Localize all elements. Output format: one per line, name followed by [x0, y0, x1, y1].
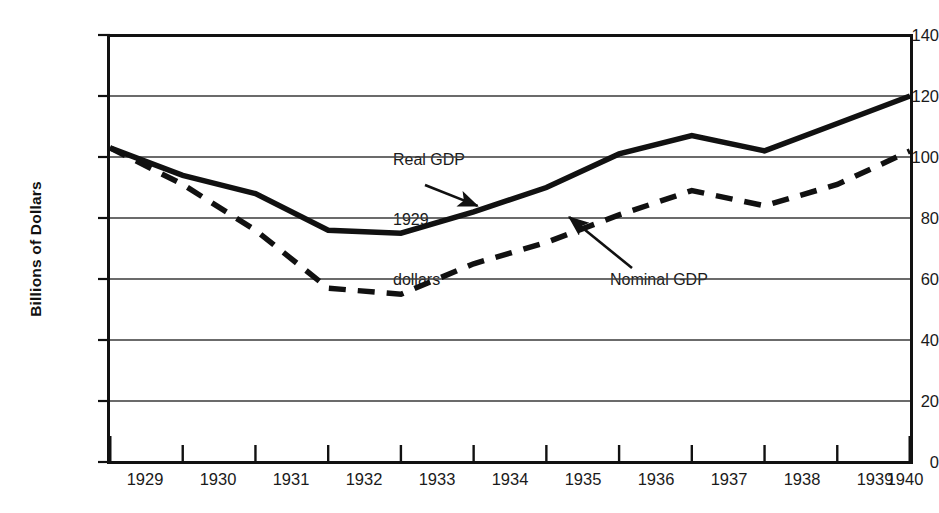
x-axis-ticks	[110, 436, 910, 462]
annotation-arrow-nominal-gdp	[569, 217, 632, 268]
series-line-real-gdp	[110, 96, 910, 233]
plot-frame	[109, 36, 912, 463]
plot-area	[0, 0, 939, 513]
gdp-chart-figure: Billions of Dollars 140 120 100 80 60 40…	[0, 0, 939, 513]
series-line-nominal-gdp	[110, 148, 910, 294]
annotation-arrow-real-gdp	[425, 185, 478, 206]
